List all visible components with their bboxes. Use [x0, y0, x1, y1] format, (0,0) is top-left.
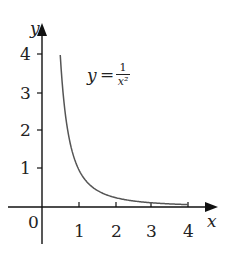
- x-tick-label-2: 2: [111, 223, 122, 240]
- origin-label: 0: [28, 214, 39, 231]
- equation-lhs: y: [87, 67, 97, 84]
- y-tick-label-4: 4: [20, 46, 31, 63]
- y-tick-label-2: 2: [20, 122, 31, 139]
- fraction-numerator: 1: [120, 62, 127, 73]
- x-axis-label: x: [207, 213, 217, 230]
- fraction-denominator: x²: [118, 76, 129, 87]
- y-axis-label: y: [30, 20, 40, 37]
- equation-fraction: 1 x²: [116, 62, 130, 87]
- x-tick-label-4: 4: [183, 223, 194, 240]
- y-tick-label-1: 1: [20, 160, 31, 177]
- x-tick-label-1: 1: [74, 223, 85, 240]
- equation-equals: =: [100, 66, 114, 83]
- x-tick-label-3: 3: [146, 223, 157, 240]
- y-ticks: [37, 54, 42, 168]
- y-tick-label-3: 3: [20, 85, 31, 102]
